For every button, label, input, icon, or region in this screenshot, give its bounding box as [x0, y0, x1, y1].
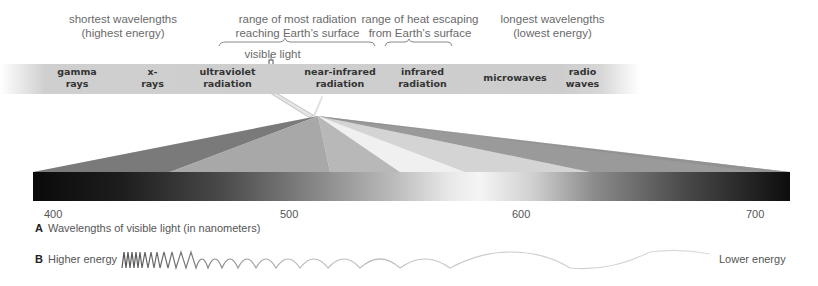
label-visible-light: visible light — [235, 47, 310, 61]
tick-600: 600 — [512, 208, 530, 220]
caption-b-letter: B — [35, 253, 43, 265]
caption-b: BHigher energy — [35, 253, 117, 265]
band-x-rays: x- rays — [135, 66, 170, 90]
label-longest-wavelengths: longest wavelengths (lowest energy) — [495, 12, 610, 40]
caption-b-lower-energy: Lower energy — [719, 253, 786, 265]
band-near-infrared: near-infrared radiation — [295, 66, 385, 90]
visible-spectrum-bar — [33, 172, 790, 201]
brace-heat-escaping — [385, 39, 452, 46]
label-shortest-wavelengths: shortest wavelengths (highest energy) — [58, 12, 188, 40]
tick-400: 400 — [44, 208, 62, 220]
label-most-radiation: range of most radiation reaching Earth’s… — [215, 12, 380, 40]
caption-b-higher-energy: Higher energy — [48, 253, 117, 265]
tick-700: 700 — [746, 208, 764, 220]
label-heat-escaping: range of heat escaping from Earth’s surf… — [360, 12, 480, 40]
band-microwaves: microwaves — [475, 72, 555, 84]
band-infrared: infrared radiation — [390, 66, 455, 90]
diagram-graphics — [0, 0, 818, 286]
caption-a-letter: A — [35, 222, 43, 234]
energy-wave — [122, 250, 710, 268]
band-radio-waves: radio waves — [560, 66, 605, 90]
band-ultraviolet: ultraviolet radiation — [190, 66, 265, 90]
caption-a-text: Wavelengths of visible light (in nanomet… — [48, 222, 260, 234]
caption-a: AWavelengths of visible light (in nanome… — [35, 222, 260, 234]
tick-500: 500 — [280, 208, 298, 220]
band-gamma-rays: gamma rays — [52, 66, 102, 90]
